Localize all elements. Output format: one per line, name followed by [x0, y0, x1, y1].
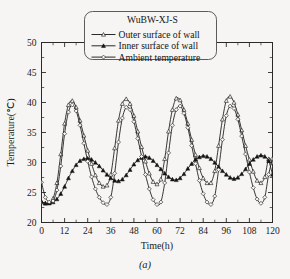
- plot-frame: [42, 43, 273, 223]
- series-2-marker-15: [97, 195, 101, 199]
- series-1-marker-5: [59, 192, 63, 196]
- series-2-marker-28: [147, 187, 151, 191]
- series-2-marker-1: [43, 195, 47, 199]
- series-0-marker-58: [263, 175, 267, 179]
- series-0-marker-14: [93, 173, 97, 177]
- chart-svg: 0122436486072849610812020253035404550Tim…: [0, 0, 290, 279]
- series-2-marker-48: [224, 114, 228, 118]
- series-0-marker-41: [197, 166, 201, 170]
- series-2-marker-41: [197, 179, 201, 183]
- series-1-marker-0: [40, 200, 44, 204]
- series-2-marker-27: [143, 173, 147, 177]
- series-2-marker-18: [109, 195, 113, 199]
- x-tick-label-24: 24: [83, 226, 93, 236]
- series-2-marker-56: [255, 197, 259, 201]
- series-2-marker-14: [93, 187, 97, 191]
- series-1-marker-7: [66, 176, 70, 180]
- x-tick-label-48: 48: [129, 226, 139, 236]
- series-1-marker-10: [78, 159, 82, 163]
- series-1-marker-58: [263, 155, 267, 159]
- series-2-marker-58: [263, 195, 267, 199]
- y-tick-label-45: 45: [27, 68, 37, 78]
- series-2: [40, 103, 275, 207]
- y-tick-label-20: 20: [27, 218, 37, 228]
- series-0-marker-27: [143, 159, 147, 163]
- series-2-marker-35: [174, 108, 178, 112]
- y-tick-label-40: 40: [27, 98, 37, 108]
- x-tick-label-60: 60: [152, 226, 162, 236]
- series-2-marker-53: [244, 152, 248, 156]
- x-tick-label-84: 84: [198, 226, 208, 236]
- series-0-marker-34: [170, 108, 174, 112]
- series-0-marker-21: [120, 102, 124, 106]
- x-tick-label-96: 96: [222, 226, 232, 236]
- series-2-marker-29: [151, 198, 155, 202]
- series-0-marker-15: [97, 181, 101, 185]
- series-0-marker-28: [147, 171, 151, 175]
- series-0-marker-29: [151, 180, 155, 184]
- y-tick-label-50: 50: [27, 38, 37, 48]
- series-0-marker-45: [213, 169, 217, 173]
- series-2-marker-40: [194, 162, 198, 166]
- series-0-marker-42: [201, 176, 205, 180]
- series-1: [40, 153, 275, 205]
- series-2-marker-33: [167, 151, 171, 155]
- series-2-marker-47: [220, 138, 224, 142]
- series-2-marker-13: [90, 175, 94, 179]
- x-tick-label-12: 12: [60, 226, 70, 236]
- x-tick-label-120: 120: [265, 226, 280, 236]
- figure-container: 0122436486072849610812020253035404550Tim…: [0, 0, 290, 279]
- series-0-marker-32: [163, 157, 167, 161]
- figure-caption: (a): [139, 259, 152, 271]
- x-tick-label-108: 108: [242, 226, 257, 236]
- series-0-marker-20: [117, 119, 121, 123]
- series-0-marker-17: [105, 183, 109, 187]
- legend-title: WuBW-XJ-S: [127, 14, 178, 25]
- series-2-marker-20: [117, 140, 121, 144]
- y-tick-label-25: 25: [27, 188, 37, 198]
- series-2-marker-21: [120, 116, 124, 120]
- x-tick-label-0: 0: [39, 226, 44, 236]
- series-0-marker-7: [66, 103, 70, 107]
- series-0-marker-31: [159, 177, 163, 181]
- series-0-marker-19: [113, 146, 117, 150]
- series-2-marker-34: [170, 123, 174, 127]
- x-axis-title: Time(h): [141, 240, 173, 252]
- series-0-marker-22: [124, 97, 128, 101]
- series-0-marker-13: [90, 162, 94, 166]
- series-0-marker-56: [255, 179, 259, 183]
- series-0-marker-35: [174, 96, 178, 100]
- series-2-marker-55: [251, 186, 255, 190]
- y-tick-label-30: 30: [27, 158, 37, 168]
- y-tick-label-35: 35: [27, 128, 37, 138]
- series-0-marker-44: [209, 181, 213, 185]
- series-1-marker-60: [271, 173, 275, 177]
- series-0-marker-48: [224, 99, 228, 103]
- series-1-marker-6: [63, 185, 67, 189]
- series-0-marker-46: [217, 144, 221, 148]
- series-1-marker-8: [70, 169, 74, 173]
- series-1-marker-56: [255, 155, 259, 159]
- series-0-marker-55: [251, 170, 255, 174]
- x-tick-label-36: 36: [106, 226, 116, 236]
- series-2-marker-19: [113, 171, 117, 175]
- series-0-marker-33: [167, 129, 171, 133]
- series-0-marker-50: [232, 101, 236, 105]
- series-1-marker-28: [147, 156, 151, 160]
- series-2-marker-31: [159, 200, 163, 204]
- series-0-marker-12: [86, 149, 90, 153]
- series-0-marker-23: [128, 102, 132, 106]
- series-0-marker-54: [247, 158, 251, 162]
- legend: WuBW-XJ-SOuter surface of wallInner surf…: [85, 12, 217, 63]
- series-2-marker-42: [201, 192, 205, 196]
- series-2-marker-32: [163, 181, 167, 185]
- series-2-marker-0: [40, 180, 44, 184]
- legend-label-2: Ambient temperature: [119, 52, 201, 63]
- legend-label-0: Outer surface of wall: [119, 29, 201, 40]
- legend-label-1: Inner surface of wall: [119, 40, 199, 51]
- series-1-marker-34: [170, 177, 174, 181]
- series-2-marker-59: [267, 173, 271, 177]
- y-axis-title: Temperature(℃): [5, 98, 17, 166]
- series-0-marker-47: [220, 117, 224, 121]
- x-tick-label-72: 72: [175, 226, 185, 236]
